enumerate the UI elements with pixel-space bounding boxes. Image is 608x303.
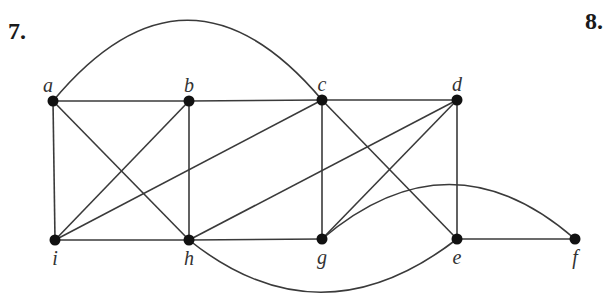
edge-a-i <box>53 101 55 240</box>
edge-d-h <box>189 100 457 240</box>
vertex-h <box>184 235 195 246</box>
vertex-label-c: c <box>318 73 327 95</box>
vertex-e <box>452 234 463 245</box>
vertex-label-d: d <box>452 73 463 95</box>
vertex-label-f: f <box>572 246 580 269</box>
vertex-c <box>317 95 328 106</box>
graph-nodes <box>48 95 581 246</box>
vertex-b <box>184 96 195 107</box>
vertex-g <box>317 234 328 245</box>
vertex-a <box>48 96 59 107</box>
vertex-f <box>570 234 581 245</box>
vertex-label-i: i <box>52 247 58 269</box>
vertex-label-e: e <box>453 246 462 268</box>
edge-h-g <box>189 239 322 240</box>
graph-edges <box>53 20 575 292</box>
vertex-label-g: g <box>317 246 327 269</box>
edge-b-c <box>189 100 322 101</box>
vertex-d <box>452 95 463 106</box>
vertex-label-h: h <box>184 247 194 269</box>
vertex-label-b: b <box>184 74 194 96</box>
vertex-label-a: a <box>43 74 53 96</box>
graph-diagram: abcdihgef <box>0 0 608 303</box>
vertex-i <box>50 235 61 246</box>
